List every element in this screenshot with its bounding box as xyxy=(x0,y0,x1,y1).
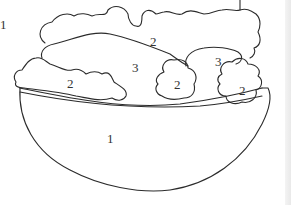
region-label-lettuce-top-center: 2 xyxy=(150,35,157,48)
region-label-lettuce-left: 2 xyxy=(67,77,74,90)
region-label-lettuce-middle: 3 xyxy=(132,61,139,74)
lettuce-right-upper-outline xyxy=(186,47,242,66)
salad-bowl-drawing xyxy=(0,0,291,205)
region-label-bowl: 1 xyxy=(107,132,114,145)
region-label-lettuce-right-upper: 3 xyxy=(215,55,222,68)
callout-marker: 1 xyxy=(0,18,7,31)
lettuce-top-outline xyxy=(40,7,260,58)
coloring-page: 1 1 2 2 3 3 2 2 xyxy=(0,0,291,205)
region-label-lettuce-right-small: 2 xyxy=(239,84,246,97)
region-label-lettuce-center-small: 2 xyxy=(174,78,181,91)
